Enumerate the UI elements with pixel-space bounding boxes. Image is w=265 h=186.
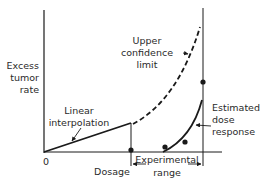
y-axis-label-line-2: tumor [10,72,39,83]
y-axis-label-line-1: Excess [7,60,39,71]
linear-interpolation-pointer-arrow [72,128,81,141]
estimated-response-label-line-1: Estimated [212,102,260,113]
dose-response-diagram: Excess tumor rate Upper confidence limit… [0,0,265,186]
x-axis-label: Dosage [94,166,130,177]
upper-confidence-label-line-1: Upper [133,35,162,46]
upper-confidence-label-line-2: confidence [121,47,173,58]
estimated-response-pointer-arrow [196,125,211,126]
linear-interpolation-label-line-1: Linear [64,105,94,116]
estimated-response-label-line-2: dose [212,114,235,125]
y-axis-label-line-3: rate [20,84,39,95]
origin-label: 0 [43,156,49,167]
data-point [162,144,167,149]
estimated-dose-response-curve [163,100,202,152]
data-point [182,139,187,144]
estimated-response-label-line-3: response [212,126,255,137]
experimental-range-label-line-1: Experimental [135,154,198,165]
upper-confidence-label-line-3: limit [137,59,158,70]
linear-interpolation-label-line-2: interpolation [49,117,110,128]
data-point [128,147,133,152]
upper-confidence-pointer-arrow [183,53,188,54]
data-point [200,79,205,84]
experimental-range-label-line-2: range [153,167,181,178]
